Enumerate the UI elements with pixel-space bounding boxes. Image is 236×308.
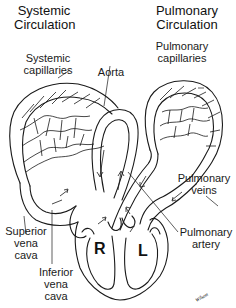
superior-vena-cava-label: Superior vena cava: [4, 225, 48, 261]
pulmonary-veins-label: Pulmonary veins: [172, 172, 236, 196]
label-line: vena: [36, 278, 76, 290]
title-line: Circulation: [152, 18, 222, 32]
heart: [70, 206, 168, 300]
label-line: Systemic: [20, 52, 76, 64]
pulmonary-artery-label: Pulmonary artery: [176, 226, 236, 250]
label-line: capillaries: [20, 64, 76, 76]
systemic-circulation-title: Systemic Circulation: [14, 4, 74, 32]
left-ventricle-label: L: [138, 242, 148, 260]
systemic-capillary-bed: [10, 83, 118, 225]
label-line: vena: [4, 237, 48, 249]
inferior-vena-cava-label: Inferior vena cava: [36, 266, 76, 302]
artist-signature: Wilson: [195, 291, 210, 302]
label-line: artery: [176, 238, 236, 250]
pulmonary-capillary-bed: [145, 81, 222, 184]
label-line: cava: [36, 290, 76, 302]
label-line: Pulmonary: [176, 226, 236, 238]
label-line: Pulmonary: [172, 172, 236, 184]
label-line: Superior: [4, 225, 48, 237]
title-line: Pulmonary: [152, 4, 222, 18]
pulmonary-circulation-title: Pulmonary Circulation: [152, 4, 222, 32]
label-line: Inferior: [36, 266, 76, 278]
label-line: cava: [4, 249, 48, 261]
systemic-capillaries-label: Systemic capillaries: [20, 52, 76, 76]
label-line: capillaries: [144, 52, 220, 64]
title-line: Circulation: [14, 18, 74, 32]
pulmonary-artery-vessel: [112, 150, 158, 230]
pulmonary-capillaries-label: Pulmonary capillaries: [144, 40, 220, 64]
right-ventricle-label: R: [94, 240, 106, 258]
vena-cava-arrows: [52, 189, 68, 204]
title-line: Systemic: [14, 4, 74, 18]
label-line: Pulmonary: [144, 40, 220, 52]
aorta-label: Aorta: [96, 66, 126, 78]
label-line: veins: [172, 184, 236, 196]
